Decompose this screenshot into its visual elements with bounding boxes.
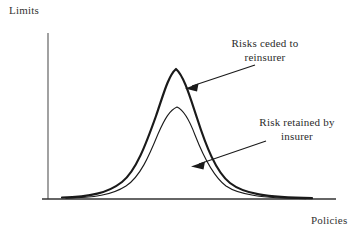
risk-retained-annotation: Risk retained by insurer xyxy=(259,115,334,143)
risks-ceded-annotation-line2: reinsurer xyxy=(232,50,299,64)
x-axis-label: Policies xyxy=(311,214,347,226)
risks-ceded-annotation-line1: Risks ceded to xyxy=(232,36,299,50)
risk-retained-annotation-line1: Risk retained by xyxy=(259,115,334,129)
risks-ceded-annotation: Risks ceded to reinsurer xyxy=(232,36,299,64)
risk-retained-annotation-line2: insurer xyxy=(259,129,334,143)
y-axis-label: Limits xyxy=(9,4,39,16)
leader-line-risks-ceded xyxy=(192,65,255,86)
figure-canvas: Limits Policies Risks ceded to reinsurer… xyxy=(0,0,361,232)
arrowhead-risk-retained xyxy=(191,162,205,170)
